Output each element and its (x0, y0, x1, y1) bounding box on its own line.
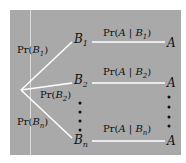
ellipsis-dots-right (168, 96, 171, 128)
tree-lines (0, 0, 186, 163)
node-b1: B1 (74, 33, 88, 48)
outcome-a-n: A (167, 135, 176, 147)
prob-label-a-given-b1: Pr(A | B1) (103, 28, 151, 41)
prob-label-a-given-bn: Pr(A | Bn) (103, 124, 151, 137)
prob-label-a-given-b2: Pr(A | B2) (103, 67, 151, 80)
prob-label-b2: Pr(B2) (40, 90, 71, 103)
prob-label-b1: Pr(B1) (17, 45, 48, 58)
ellipsis-dots-left (79, 102, 82, 132)
outcome-a-1: A (167, 37, 176, 49)
prob-label-bn: Pr(Bn) (17, 117, 48, 130)
outcome-a-2: A (167, 77, 176, 89)
node-bn: Bn (74, 134, 88, 149)
node-b2: B2 (74, 74, 88, 89)
